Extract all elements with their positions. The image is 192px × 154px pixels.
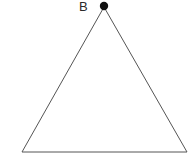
triangle-shape: [22, 7, 187, 152]
point-b-label: B: [79, 0, 88, 14]
point-b-marker: [100, 2, 108, 10]
triangle-diagram: B: [0, 0, 192, 154]
